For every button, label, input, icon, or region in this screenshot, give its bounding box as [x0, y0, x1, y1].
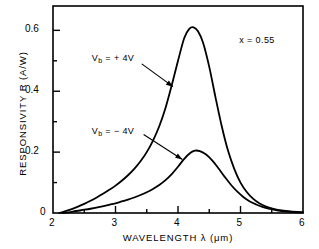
- annotation-vb-positive-rest: = + 4V: [102, 53, 134, 63]
- x-axis-title: WAVELENGTH λ (μm): [53, 232, 303, 243]
- figure-container: RESPONSIVITY R (A/W) WAVELENGTH λ (μm) 2…: [0, 0, 319, 249]
- y-axis-title: RESPONSIVITY R (A/W): [17, 24, 28, 204]
- axis-ticks: [53, 30, 272, 213]
- x-tick-label: 3: [112, 217, 118, 228]
- annotation-vb-negative: Vb = − 4V: [92, 126, 135, 137]
- x-tick-label: 6: [299, 217, 305, 228]
- x-tick-label: 2: [49, 217, 55, 228]
- annotation-composition: x = 0.55: [239, 35, 274, 45]
- x-tick-label: 5: [237, 217, 243, 228]
- annotation-arrows: [142, 64, 183, 160]
- annotation-arrow-head-1: [175, 153, 182, 159]
- y-tick-label: 0.4: [25, 84, 39, 95]
- annotation-vb-negative-rest: = − 4V: [102, 126, 134, 136]
- y-tick-label: 0: [40, 206, 46, 217]
- y-tick-label: 0.6: [25, 23, 39, 34]
- curve-series-1: [62, 150, 303, 213]
- x-tick-label: 4: [174, 217, 180, 228]
- y-tick-label: 0.2: [25, 145, 39, 156]
- annotation-vb-positive: Vb = + 4V: [92, 53, 135, 64]
